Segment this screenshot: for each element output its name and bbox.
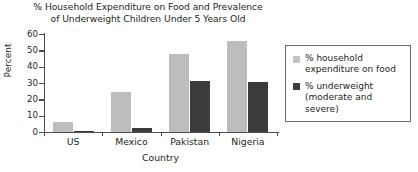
y-tick-label: 40 [0, 62, 38, 71]
bar[interactable] [169, 54, 189, 132]
y-tick-label: 0 [0, 128, 38, 137]
chart-title-line-2: of Underweight Children Under 5 Years Ol… [14, 13, 282, 25]
bar[interactable] [53, 122, 73, 132]
bar[interactable] [190, 81, 210, 132]
legend-label-line: expenditure on food [305, 64, 409, 75]
chart-legend: % householdexpenditure on food% underwei… [285, 45, 411, 122]
bar[interactable] [111, 92, 131, 132]
bar[interactable] [132, 128, 152, 132]
y-tick-label: 10 [0, 111, 38, 120]
bar[interactable] [248, 82, 268, 132]
chart-title: % Household Expenditure on Food and Prev… [14, 1, 282, 26]
legend-item-label: % householdexpenditure on food [305, 53, 409, 76]
bar-group [53, 34, 94, 132]
x-axis-label: Country [44, 152, 277, 163]
bar-group [111, 34, 152, 132]
legend-label-line: % underweight [305, 81, 409, 92]
bar[interactable] [74, 131, 94, 132]
bar-group [227, 34, 268, 132]
bar[interactable] [227, 41, 247, 132]
legend-swatch-icon [293, 83, 300, 90]
x-axis-line [43, 132, 279, 133]
chart-title-line-1: % Household Expenditure on Food and Prev… [14, 1, 282, 13]
y-tick-label: 20 [0, 95, 38, 104]
legend-swatch-icon [293, 56, 300, 63]
y-tick-label: 50 [0, 46, 38, 55]
legend-item-label: % underweight(moderate andsevere) [305, 81, 409, 115]
y-tick-label: 30 [0, 79, 38, 88]
legend-label-line: severe) [305, 104, 409, 115]
x-tick-label: Nigeria [208, 136, 288, 147]
bar-group [169, 34, 210, 132]
chart-figure: % Household Expenditure on Food and Prev… [0, 0, 418, 172]
plot-area [44, 34, 277, 132]
y-tick-label: 60 [0, 30, 38, 39]
legend-label-line: (moderate and [305, 92, 409, 103]
legend-label-line: % household [305, 53, 409, 64]
